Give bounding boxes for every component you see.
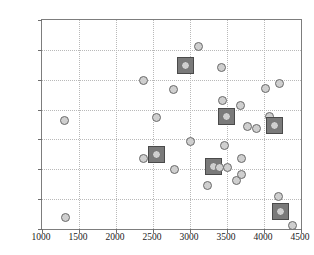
data-point	[203, 181, 212, 190]
x-axis-tick	[153, 229, 154, 233]
data-point	[243, 122, 252, 131]
data-point	[275, 79, 284, 88]
data-point	[237, 154, 246, 163]
gridline-horizontal	[42, 139, 301, 140]
data-point	[181, 61, 190, 70]
data-point	[61, 213, 70, 222]
data-point	[169, 85, 178, 94]
x-axis-tick	[116, 229, 117, 233]
data-point	[139, 76, 148, 85]
gridline-vertical	[264, 20, 265, 229]
gridline-vertical	[116, 20, 117, 229]
gridline-vertical	[153, 20, 154, 229]
y-axis-tick	[38, 199, 42, 200]
data-point	[186, 137, 195, 146]
data-point	[223, 163, 232, 172]
gridline-horizontal	[42, 199, 301, 200]
data-point	[170, 165, 179, 174]
gridline-vertical	[190, 20, 191, 229]
y-axis-tick	[38, 20, 42, 21]
gridline-horizontal	[42, 80, 301, 81]
scatter-plot-figure: 5001000150020002500300035004000 10001500…	[0, 0, 314, 255]
gridline-horizontal	[42, 110, 301, 111]
x-axis-tick	[42, 229, 43, 233]
data-point	[139, 154, 148, 163]
y-axis-tick	[38, 110, 42, 111]
y-axis-tick	[38, 50, 42, 51]
x-axis-tick	[190, 229, 191, 233]
x-axis-tick	[227, 229, 228, 233]
data-point	[222, 112, 231, 121]
data-point	[60, 116, 69, 125]
y-axis-tick	[38, 139, 42, 140]
plot-area	[41, 19, 302, 230]
data-point	[220, 141, 229, 150]
data-point	[218, 96, 227, 105]
gridline-vertical	[79, 20, 80, 229]
data-point	[152, 113, 161, 122]
x-axis-tick	[301, 229, 302, 233]
data-point	[270, 121, 279, 130]
x-axis-tick	[79, 229, 80, 233]
data-point	[252, 124, 261, 133]
data-point	[274, 192, 283, 201]
y-axis-tick	[38, 169, 42, 170]
y-axis-tick	[38, 80, 42, 81]
data-point	[237, 170, 246, 179]
data-point	[236, 101, 245, 110]
x-axis-tick	[264, 229, 265, 233]
x-axis-tick-label: 4500	[270, 232, 314, 242]
data-point	[217, 63, 226, 72]
data-point	[276, 207, 285, 216]
data-point	[194, 42, 203, 51]
data-point	[261, 84, 270, 93]
data-point	[288, 221, 297, 230]
gridline-horizontal	[42, 50, 301, 51]
